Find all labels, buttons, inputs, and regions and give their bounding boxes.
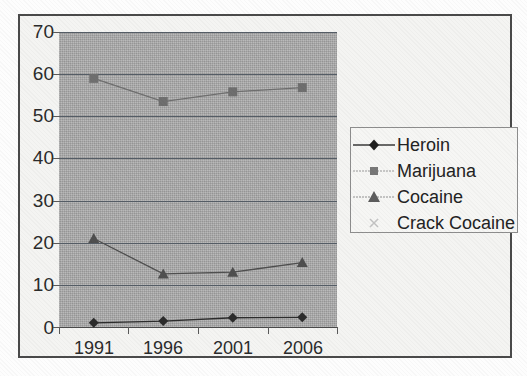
legend-label-marijuana: Marijuana <box>397 161 476 181</box>
legend-marker-cross-icon <box>351 212 397 234</box>
legend-item-crack-cocaine[interactable]: Crack Cocaine <box>351 210 517 236</box>
legend-item-cocaine[interactable]: Cocaine <box>351 184 517 210</box>
legend-marker-triangle-icon <box>351 186 397 208</box>
y-axis-label-30: 30 <box>20 191 54 210</box>
x-axis-label-2006: 2006 <box>273 338 333 358</box>
x-tick-3 <box>268 327 269 334</box>
y-axis-labels: 70 60 50 40 30 20 10 0 <box>14 16 54 360</box>
series-heroin <box>89 312 308 327</box>
legend-item-heroin[interactable]: Heroin <box>351 132 517 158</box>
chart-legend: Heroin Marijuana Cocai <box>350 127 518 233</box>
x-tick-1 <box>128 327 129 334</box>
y-axis-label-70: 70 <box>20 22 54 41</box>
chart-frame: 70 60 50 40 30 20 10 0 1991 1996 2001 20… <box>18 14 512 358</box>
y-axis-label-10: 10 <box>20 275 54 294</box>
series-overlay <box>59 32 337 327</box>
plot-area <box>59 32 337 327</box>
y-axis-label-20: 20 <box>20 233 54 252</box>
legend-marker-square-icon <box>351 160 397 182</box>
y-axis-label-50: 50 <box>20 106 54 125</box>
y-axis-label-40: 40 <box>20 148 54 167</box>
legend-item-marijuana[interactable]: Marijuana <box>351 158 517 184</box>
legend-label-crack-cocaine: Crack Cocaine <box>397 213 515 233</box>
x-axis-label-2001: 2001 <box>203 338 263 358</box>
series-cocaine <box>88 233 308 278</box>
x-tick-0 <box>59 327 60 334</box>
legend-label-cocaine: Cocaine <box>397 187 463 207</box>
y-axis-label-0: 0 <box>20 318 54 337</box>
x-axis-label-1991: 1991 <box>64 338 124 358</box>
y-axis-label-60: 60 <box>20 64 54 83</box>
chart-page: 70 60 50 40 30 20 10 0 1991 1996 2001 20… <box>0 0 527 376</box>
series-marijuana <box>89 74 307 106</box>
x-tick-4 <box>337 327 338 334</box>
legend-label-heroin: Heroin <box>397 135 450 155</box>
x-tick-2 <box>198 327 199 334</box>
x-axis-label-1996: 1996 <box>133 338 193 358</box>
legend-marker-diamond-icon <box>351 134 397 156</box>
